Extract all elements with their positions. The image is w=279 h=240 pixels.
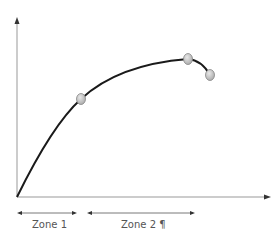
zone-2-label: Zone 2 ¶ <box>121 219 166 230</box>
x-axis <box>17 195 271 200</box>
data-point-2 <box>184 54 193 65</box>
curve <box>17 59 210 197</box>
zone-2-arrow <box>87 211 195 215</box>
data-point-3 <box>206 70 215 81</box>
y-axis <box>15 17 20 197</box>
zone-1-arrow <box>17 211 77 215</box>
zone-1-label: Zone 1 <box>32 219 67 230</box>
data-point-1 <box>77 94 86 105</box>
diagram-canvas <box>0 0 279 240</box>
